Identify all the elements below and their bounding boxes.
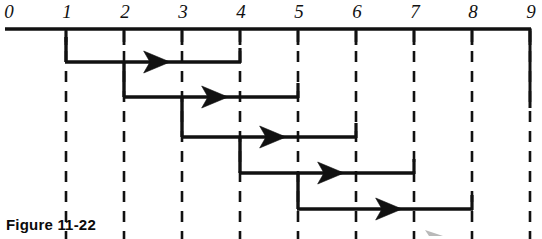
partial-marks-group bbox=[425, 230, 443, 236]
figure-caption: Figure 11-22 bbox=[6, 216, 96, 233]
axis-tick-label-4: 4 bbox=[236, 2, 246, 21]
figure-container: 0123456789 Figure 11-22 bbox=[0, 0, 542, 239]
axis-tick-label-6: 6 bbox=[352, 2, 362, 21]
axis-tick-label-8: 8 bbox=[468, 2, 478, 21]
axis-tick-label-5: 5 bbox=[294, 2, 304, 21]
timeline-diagram bbox=[0, 0, 542, 239]
axis-tick-label-2: 2 bbox=[120, 2, 130, 21]
axis-tick-label-7: 7 bbox=[410, 2, 420, 21]
axis-tick-label-9: 9 bbox=[526, 2, 536, 21]
bar-1 bbox=[65, 37, 241, 73]
axis-tick-label-3: 3 bbox=[178, 2, 188, 21]
partial-arrowhead-fragment bbox=[425, 230, 443, 236]
bars-group bbox=[65, 37, 473, 220]
axis-group bbox=[5, 28, 531, 45]
axis-tick-label-0: 0 bbox=[4, 2, 14, 21]
axis-tick-label-1: 1 bbox=[62, 2, 72, 21]
